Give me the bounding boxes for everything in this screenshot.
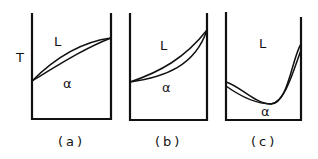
- temperature-axis-label: T: [15, 50, 24, 65]
- panel-b-liquidus: [130, 30, 207, 82]
- phase-diagrams: T L α (a) L α (b) L α (c): [0, 0, 318, 159]
- panel-b-solidus: [130, 30, 207, 82]
- panel-b-caption: (b): [155, 134, 182, 149]
- panel-a-alpha-label: α: [63, 76, 72, 91]
- panel-c-liquidus: [226, 44, 301, 104]
- panel-b-liquid-label: L: [160, 38, 168, 53]
- panel-a-liquid-label: L: [54, 34, 62, 49]
- panel-b-frame: [130, 13, 207, 120]
- panel-b: L α (b): [130, 13, 207, 149]
- panel-a: L α (a): [32, 13, 111, 149]
- panel-a-solidus: [32, 38, 111, 81]
- panel-a-frame: [32, 13, 111, 119]
- panel-b-alpha-label: α: [162, 80, 171, 95]
- panel-c-alpha-label: α: [261, 104, 270, 119]
- panel-a-caption: (a): [58, 134, 85, 149]
- panel-c: L α (c): [226, 12, 301, 149]
- panel-c-liquid-label: L: [259, 36, 267, 51]
- panel-c-caption: (c): [251, 134, 277, 149]
